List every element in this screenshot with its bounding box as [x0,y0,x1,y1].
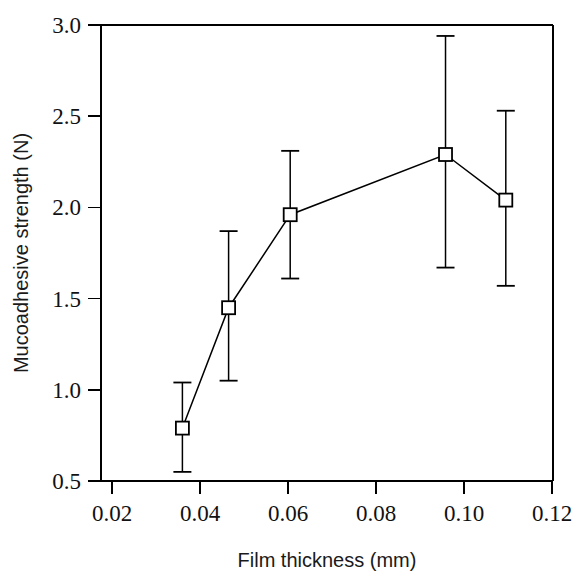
x-tick-label-4: 0.10 [444,501,484,526]
data-point-3 [439,148,452,161]
x-axis-tick-labels: 0.020.040.060.080.100.12 [92,501,572,526]
y-axis-ticks [88,25,101,481]
y-tick-label-1: 1.0 [52,378,81,403]
y-tick-label-5: 3.0 [52,13,81,38]
chart-canvas: 0.020.040.060.080.100.12 0.51.01.52.02.5… [0,0,588,580]
x-tick-label-2: 0.06 [268,501,308,526]
data-point-4 [499,194,512,207]
chart-figure: 0.020.040.060.080.100.12 0.51.01.52.02.5… [0,0,588,580]
x-tick-label-3: 0.08 [356,501,396,526]
series-markers [176,148,512,435]
y-axis-title: Mucoadhesive strength (N) [10,133,32,373]
x-axis-title: Film thickness (mm) [238,549,417,571]
x-tick-label-5: 0.12 [532,501,572,526]
data-point-0 [176,422,189,435]
y-axis-tick-labels: 0.51.01.52.02.53.0 [52,13,81,494]
y-tick-label-4: 2.5 [52,104,81,129]
axis-frame [89,25,553,481]
x-tick-label-1: 0.04 [180,501,221,526]
y-tick-label-3: 2.0 [52,195,81,220]
data-point-2 [284,208,297,221]
error-bars [173,36,514,472]
data-line [182,155,505,429]
series-line [182,155,505,429]
y-tick-label-2: 1.5 [52,287,81,312]
x-tick-label-0: 0.02 [92,501,132,526]
x-axis-ticks [112,481,552,494]
y-tick-label-0: 0.5 [52,469,81,494]
data-point-1 [222,301,235,314]
